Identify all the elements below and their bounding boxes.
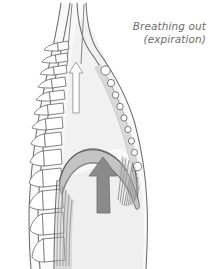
expiration-diagram-figure: Breathing out (expiration)	[0, 0, 212, 269]
costal-cartilage-node	[125, 126, 131, 132]
costal-cartilage-node	[117, 103, 123, 109]
costal-cartilage-node	[131, 149, 137, 155]
costal-cartilage-node	[101, 66, 110, 75]
costal-cartilage-node	[128, 138, 134, 144]
figure-caption: Breathing out (expiration)	[133, 20, 206, 45]
costal-cartilage-node	[107, 79, 114, 86]
costal-cartilage-node	[121, 115, 127, 121]
caption-line-secondary: (expiration)	[133, 33, 206, 46]
caption-line-primary: Breathing out	[133, 20, 206, 33]
costal-cartilage-node	[112, 92, 119, 99]
